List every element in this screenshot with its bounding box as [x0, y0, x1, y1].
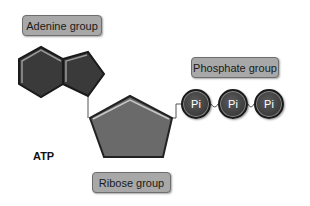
- phosphate-1: Pi: [181, 89, 211, 119]
- phosphate-2: Pi: [218, 89, 248, 119]
- adenine-ring: [19, 47, 104, 97]
- phosphate-3: Pi: [254, 89, 284, 119]
- phosphate-bond-1: [211, 104, 218, 107]
- ribose-group-label: Ribose group: [92, 172, 171, 193]
- adenine-group-label: Adenine group: [22, 15, 102, 36]
- atp-title: ATP: [33, 150, 54, 162]
- ribose-ring: [90, 96, 172, 157]
- phosphate-group-label: Phosphate group: [191, 57, 279, 78]
